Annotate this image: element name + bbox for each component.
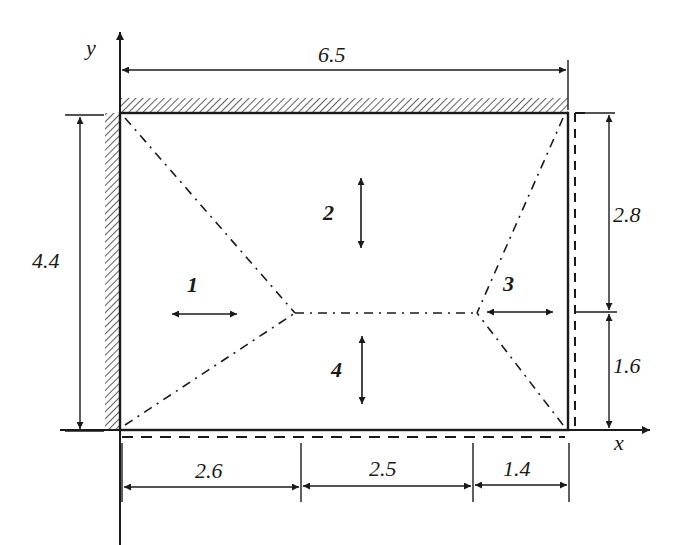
plate-diagram: y x 1 2 3 4 6.5 xyxy=(0,0,682,545)
dimension-bottom: 2.6 2.5 1.4 xyxy=(122,443,569,502)
yield-line-top-left xyxy=(125,118,295,313)
dimension-right: 2.8 1.6 xyxy=(575,113,641,428)
dimension-label-upper: 2.8 xyxy=(613,202,641,227)
dimension-label-lower: 1.6 xyxy=(613,353,641,378)
dimension-label-left: 2.6 xyxy=(195,458,223,483)
zone-2-label: 2 xyxy=(322,200,334,225)
x-axis-label: x xyxy=(613,430,624,455)
left-fixed-edge-hatching xyxy=(105,113,120,430)
y-axis-label: y xyxy=(84,35,96,60)
top-fixed-edge-hatching xyxy=(120,98,568,113)
yield-line-bottom-left xyxy=(125,313,295,425)
yield-line-top-right xyxy=(477,118,563,313)
zone-2: 2 xyxy=(322,178,361,248)
zone-4: 4 xyxy=(330,336,362,404)
dimension-label: 6.5 xyxy=(318,42,346,67)
zone-3-label: 3 xyxy=(502,271,514,296)
dimension-left-height: 4.4 xyxy=(32,115,104,431)
yield-line-bottom-right xyxy=(477,313,563,425)
dimension-label: 4.4 xyxy=(32,248,60,273)
zone-1-label: 1 xyxy=(187,272,198,297)
zone-3: 3 xyxy=(487,271,553,312)
dimension-label-right: 1.4 xyxy=(503,456,531,481)
zone-4-label: 4 xyxy=(330,357,342,382)
dimension-label-middle: 2.5 xyxy=(369,456,397,481)
x-axis: x xyxy=(60,430,650,455)
zone-1: 1 xyxy=(172,272,237,314)
